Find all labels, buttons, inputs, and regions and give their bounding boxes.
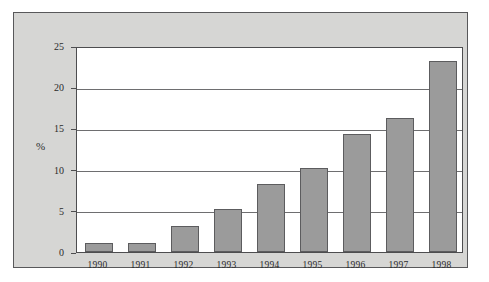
x-axis-tick-label: 1993 xyxy=(204,260,250,270)
x-axis-tick-label: 1995 xyxy=(290,260,336,270)
y-axis-tick-label: 0 xyxy=(40,248,64,258)
x-axis-tick-label: 1990 xyxy=(75,260,121,270)
bar xyxy=(171,226,199,252)
bar xyxy=(85,243,113,252)
chart-figure: % 0510152025 199019911992199319941995199… xyxy=(0,0,489,282)
plot-frame xyxy=(76,47,463,253)
y-axis-tick-label: 10 xyxy=(40,166,64,176)
x-axis-tick-label: 1992 xyxy=(161,260,207,270)
x-axis-tick-label: 1998 xyxy=(419,260,465,270)
y-axis-tick-label: 5 xyxy=(40,207,64,217)
gridline xyxy=(77,89,462,90)
x-axis-tick-label: 1996 xyxy=(333,260,379,270)
bar xyxy=(386,118,414,252)
chart-panel: % 0510152025 199019911992199319941995199… xyxy=(13,12,468,268)
y-axis-tick-label: 20 xyxy=(40,83,64,93)
bar xyxy=(343,134,371,252)
bar xyxy=(300,168,328,252)
bar xyxy=(257,184,285,252)
x-axis-tick-label: 1994 xyxy=(247,260,293,270)
y-axis-tick-label: 15 xyxy=(40,124,64,134)
bar xyxy=(214,209,242,252)
x-axis-tick-label: 1997 xyxy=(376,260,422,270)
x-axis-tick-label: 1991 xyxy=(118,260,164,270)
bar xyxy=(128,243,156,252)
plot-area xyxy=(77,48,462,252)
y-axis-tick-label: 25 xyxy=(40,42,64,52)
bar xyxy=(429,61,457,252)
y-axis-title: % xyxy=(36,141,45,152)
